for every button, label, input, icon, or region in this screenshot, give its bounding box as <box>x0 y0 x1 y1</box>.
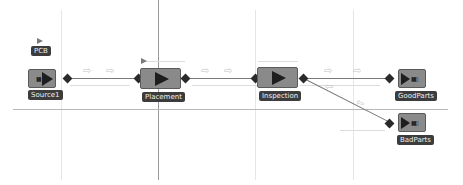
play-icon <box>272 71 286 85</box>
flow-arrow-icon: ⇨ <box>201 66 209 76</box>
output-port[interactable] <box>181 74 191 84</box>
sink-bars-icon: ▮▮▯ <box>411 75 418 82</box>
queue-line <box>340 130 385 131</box>
queue-line <box>258 61 298 62</box>
axis-line-vertical <box>158 0 159 180</box>
block-label-goodparts[interactable]: GoodParts <box>395 91 437 101</box>
flow-arrow-icon: ⇨ <box>353 66 361 76</box>
queue-line <box>300 85 380 86</box>
entity-flag-icon <box>141 58 147 64</box>
play-icon <box>155 72 169 86</box>
sink-icon <box>401 73 410 85</box>
block-label-placement[interactable]: Placement <box>142 92 185 102</box>
connector-source-placement[interactable] <box>67 78 136 79</box>
queue-line <box>192 85 267 86</box>
block-goodparts[interactable]: ▮▮▯ <box>398 69 426 88</box>
block-inspection[interactable] <box>257 67 298 88</box>
flow-arrow-icon: ⇨ <box>83 66 91 76</box>
flow-arrow-icon: ⇨ <box>224 66 232 76</box>
flow-arrow-icon: ⇨ <box>324 66 332 76</box>
block-label-badparts[interactable]: BadParts <box>397 135 434 145</box>
block-label-source1[interactable]: Source1 <box>28 90 63 100</box>
flow-arrow-icon: ⇨ <box>106 66 114 76</box>
queue-line <box>70 85 130 86</box>
source-icon: ▮▮ <box>36 75 41 82</box>
connector-inspection-goodparts[interactable] <box>304 78 387 79</box>
block-placement[interactable] <box>140 68 181 89</box>
output-port[interactable] <box>299 74 309 84</box>
block-label-inspection[interactable]: Inspection <box>259 91 301 101</box>
connector-placement-inspection[interactable] <box>186 78 253 79</box>
output-port[interactable] <box>63 74 73 84</box>
entity-label-pcb[interactable]: PCB <box>31 46 51 56</box>
input-port[interactable] <box>385 119 395 129</box>
play-icon <box>42 72 53 86</box>
block-badparts[interactable]: ▮▮▯ <box>398 113 426 132</box>
queue-line <box>145 61 185 62</box>
entity-flag-icon[interactable] <box>37 38 43 44</box>
flow-arrow-back-icon: ⇦ <box>355 97 366 109</box>
block-source1[interactable]: ▮▮ <box>28 69 56 88</box>
input-port[interactable] <box>385 74 395 84</box>
flow-arrow-back-icon: ⇦ <box>325 82 333 92</box>
grid-line <box>353 10 354 180</box>
sink-icon <box>401 117 410 129</box>
axis-line-horizontal <box>13 109 448 110</box>
sink-bars-icon: ▮▮▯ <box>411 119 418 126</box>
grid-line <box>255 10 256 180</box>
